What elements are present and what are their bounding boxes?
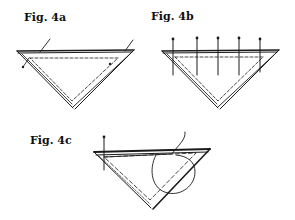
fig-4c-drawing (94, 132, 210, 209)
diagram-canvas (0, 0, 295, 220)
fig-4b-drawing (162, 37, 279, 109)
pins (172, 37, 262, 75)
fig-4a-drawing (17, 39, 134, 109)
